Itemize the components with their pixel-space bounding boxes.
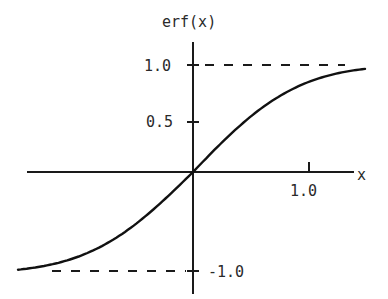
x-tick-label-1: 1.0 [290, 182, 317, 200]
erf-curve [18, 69, 365, 270]
erf-chart: erf(x) x 1.0 0.5 -1.0 1.0 [0, 0, 388, 299]
y-tick-label-neg1: -1.0 [208, 263, 244, 281]
y-axis-label: erf(x) [162, 13, 216, 31]
y-tick-label-1: 1.0 [144, 57, 171, 75]
y-tick-label-0.5: 0.5 [146, 113, 173, 131]
x-axis-label: x [357, 166, 366, 184]
